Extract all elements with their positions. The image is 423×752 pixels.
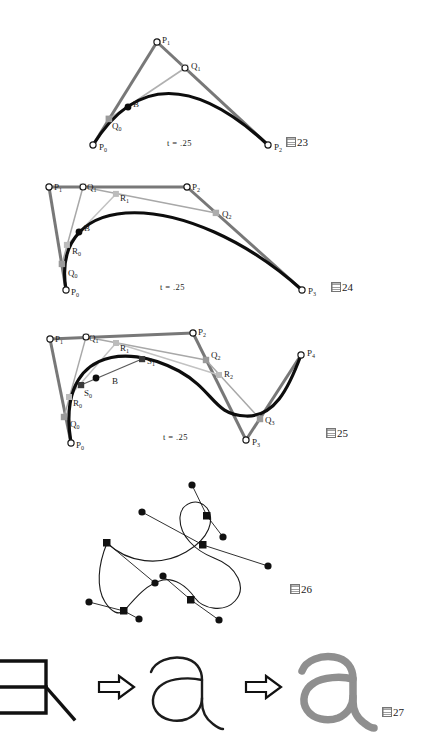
figure-glyph-icon (290, 584, 300, 594)
figure-26: 26 (0, 0, 423, 640)
fig26-spline-curve (99, 502, 240, 613)
fig26-tangent-handles (89, 485, 268, 620)
figure-glyph-icon (382, 707, 392, 717)
fig26-knot-points (103, 512, 211, 615)
fig27-stage-grid-outline (0, 661, 74, 719)
fig26-handle-points (85, 481, 271, 623)
scanned-page: P0 P1 P2 Q0 Q1 B t = .25 23 (0, 0, 423, 752)
figure-26-caption: 26 (290, 583, 312, 595)
fig27-stage-filled-a (302, 657, 374, 728)
figure-27: 27 (0, 640, 423, 752)
fig27-arrow-1-icon (99, 676, 134, 698)
fig27-arrow-2-icon (246, 676, 281, 698)
fig27-stage-outline-a (151, 658, 223, 729)
figure-27-caption: 27 (382, 706, 404, 718)
